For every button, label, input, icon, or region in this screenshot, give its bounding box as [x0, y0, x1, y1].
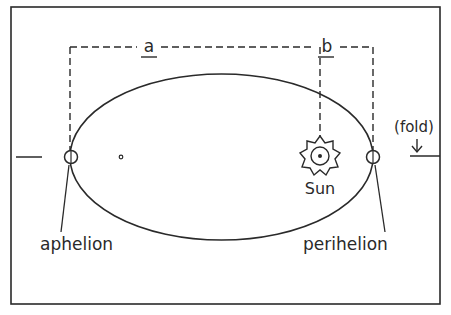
fold-label: (fold) — [394, 118, 434, 136]
label-a: a — [144, 36, 154, 56]
sun-icon — [300, 136, 340, 175]
empty-focus-dot — [119, 155, 123, 159]
label-b: b — [322, 36, 333, 56]
perihelion-label: perihelion — [303, 234, 388, 254]
aphelion-leader-line — [61, 165, 69, 232]
fold-arrow-icon — [412, 139, 422, 152]
sun-label: Sun — [305, 179, 335, 198]
perihelion-leader-line — [375, 165, 385, 232]
orbit-diagram: a b Sun aphelion perihelion (fold) — [0, 0, 451, 315]
aphelion-label: aphelion — [40, 234, 113, 254]
